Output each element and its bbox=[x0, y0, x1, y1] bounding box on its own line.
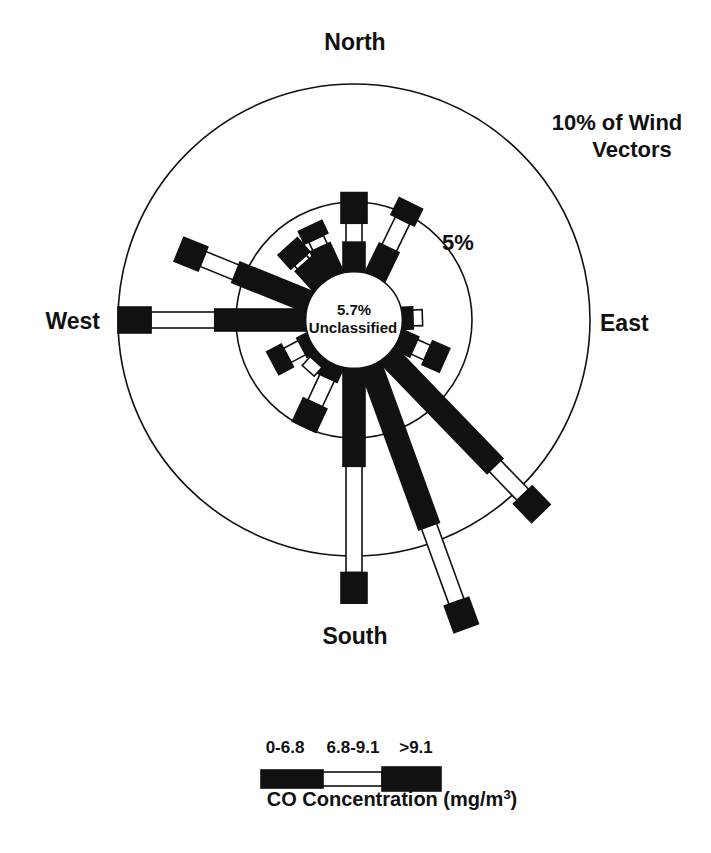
bar-s bbox=[341, 368, 367, 603]
wind-rose-chart: 5.7% Unclassified North South West East … bbox=[0, 0, 711, 853]
legend-swatch-1 bbox=[261, 770, 323, 788]
segment-s-class-2 bbox=[346, 466, 362, 572]
segment-e-class-1 bbox=[402, 307, 413, 329]
segment-s-class-3 bbox=[341, 573, 367, 604]
bar-nne bbox=[364, 198, 423, 283]
west-label: West bbox=[45, 308, 100, 334]
segment-w-class-2 bbox=[151, 312, 215, 328]
legend-label-low: 0-6.8 bbox=[266, 738, 305, 757]
bar-w bbox=[118, 307, 306, 333]
north-label: North bbox=[324, 29, 385, 55]
ring-10-label-line1: 10% of Wind bbox=[552, 110, 683, 135]
bars-layer bbox=[118, 193, 550, 633]
bar-n bbox=[341, 193, 367, 272]
south-label: South bbox=[322, 623, 387, 649]
ring-10-label-line2: Vectors bbox=[592, 137, 672, 162]
legend-swatch-2 bbox=[323, 772, 382, 786]
segment-w-class-1 bbox=[215, 309, 306, 331]
segment-n-class-3 bbox=[341, 193, 367, 224]
legend-title-end: ) bbox=[511, 788, 518, 810]
east-label: East bbox=[600, 310, 649, 336]
segment-n-class-2 bbox=[346, 223, 362, 242]
center-value-label: 5.7% bbox=[337, 301, 371, 318]
segment-n-class-1 bbox=[343, 242, 365, 272]
bar-e bbox=[402, 307, 423, 330]
legend-title: CO Concentration (mg/m3) bbox=[267, 787, 518, 810]
legend: 0-6.8 6.8-9.1 >9.1 CO Concentration (mg/… bbox=[261, 738, 517, 810]
center-unclassified-label: Unclassified bbox=[309, 319, 397, 336]
segment-s-class-1 bbox=[343, 368, 365, 466]
legend-title-main: CO Concentration (mg/m bbox=[267, 788, 504, 810]
legend-label-mid: 6.8-9.1 bbox=[327, 738, 380, 757]
segment-wnw-class-2 bbox=[200, 252, 239, 280]
segment-e-class-2 bbox=[413, 310, 423, 326]
ring-5-label: 5% bbox=[442, 230, 474, 255]
legend-title-sup: 3 bbox=[503, 787, 510, 802]
segment-sse-class-2 bbox=[422, 524, 464, 605]
segment-w-class-3 bbox=[118, 307, 151, 333]
legend-label-high: >9.1 bbox=[399, 738, 433, 757]
